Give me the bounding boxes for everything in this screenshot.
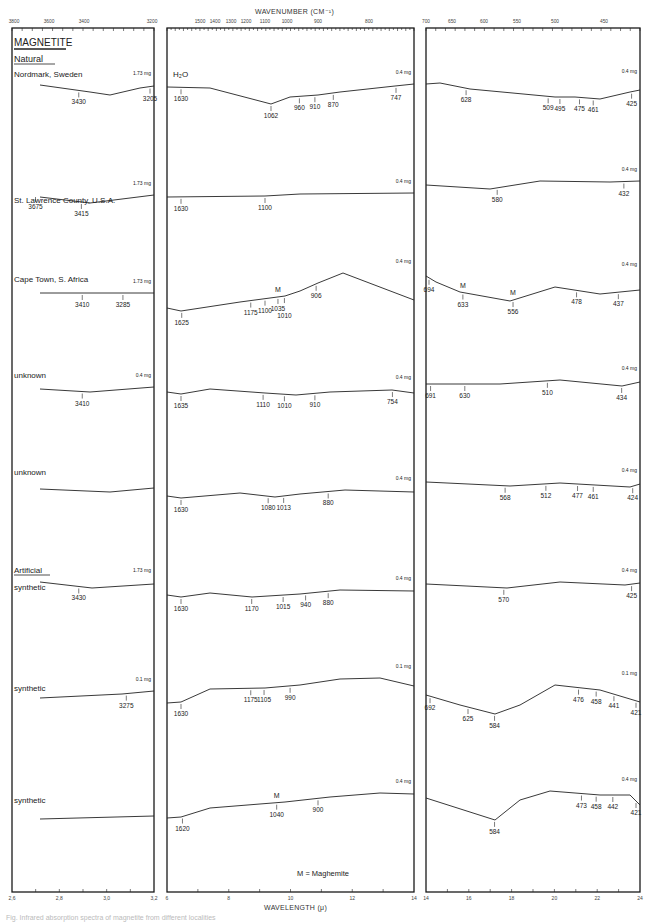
sample-name: unknown [14, 371, 46, 380]
band-label: 425 [626, 100, 637, 107]
sample-name: Nordmark, Sweden [14, 70, 82, 79]
sample-mass: 0.4 mg [622, 166, 638, 172]
band-label: 630 [459, 392, 470, 399]
spectrum-trace [426, 181, 640, 189]
band-label: 1630 [174, 205, 189, 212]
sample-mass: 0.4 mg [622, 567, 638, 573]
band-label: 584 [489, 722, 500, 729]
band-label: 495 [554, 105, 565, 112]
band-label: 1105 [257, 696, 271, 703]
sample-name: synthetic [14, 796, 46, 805]
band-label: 754 [387, 398, 398, 405]
spectrum-panel-2 [167, 28, 414, 892]
band-label: 477 [572, 492, 583, 499]
band-label: 1080 [261, 504, 276, 511]
sample-mass: 0.4 mg [622, 467, 638, 473]
sample-mass: 1.73 mg [133, 180, 151, 186]
top-tick-label: 1000 [282, 19, 293, 24]
band-label: 1175 [244, 309, 258, 316]
bottom-tick-label: 8 [227, 895, 230, 901]
top-tick-label: 1400 [210, 19, 221, 24]
band-label: 990 [285, 694, 296, 701]
spectrum-row: Cape Town, S. Africa1.73 mg341032850.4 m… [14, 258, 640, 326]
ir-spectra-figure: 38003600340032002,62,83,03,2150014001300… [0, 0, 645, 922]
bottom-tick-label: 2,8 [56, 895, 63, 901]
bottom-tick-label: 18 [509, 895, 515, 901]
band-label: 900 [313, 806, 324, 813]
spectrum-trace [167, 389, 414, 395]
bottom-tick-label: 10 [288, 895, 294, 901]
sample-name: Cape Town, S. Africa [14, 275, 89, 284]
bottom-tick-label: 16 [466, 895, 472, 901]
band-label: 510 [542, 389, 553, 396]
band-label: 441 [609, 702, 620, 709]
top-tick-label: 550 [513, 19, 521, 24]
band-label: 434 [616, 394, 627, 401]
band-label: 461 [588, 493, 599, 500]
spectrum-row: synthetic0.1 mg32750.1 mg163011751105990… [14, 663, 642, 729]
sample-mass: 0.1 mg [622, 670, 638, 676]
bottom-tick-label: 3,2 [151, 895, 158, 901]
band-label: 940 [300, 601, 311, 608]
band-label: 461 [588, 106, 599, 113]
band-label: 1110 [256, 401, 270, 408]
bottom-tick-label: 3,0 [103, 895, 110, 901]
figure-caption: Fig. Infrared absorption spectra of magn… [6, 914, 216, 921]
band-label: 625 [463, 715, 474, 722]
bottom-tick-label: 2,6 [9, 895, 16, 901]
sample-mass: 0.4 mg [396, 69, 412, 75]
top-tick-label: 3600 [44, 19, 55, 24]
bottom-tick-label: 20 [552, 895, 558, 901]
top-tick-label: 1100 [260, 19, 271, 24]
top-tick-label: 700 [422, 19, 430, 24]
maghemite-legend: M = Maghemite [297, 869, 349, 878]
band-label: 421 [631, 809, 642, 816]
band-label: 3430 [72, 594, 87, 601]
band-label: 3275 [119, 702, 134, 709]
sample-mass: 1.73 mg [133, 278, 151, 284]
sample-mass: 0.4 mg [396, 778, 412, 784]
top-tick-label: 600 [480, 19, 488, 24]
band-label: 3415 [74, 210, 89, 217]
spectrum-row: St. Lawrence County, U.S.A.1.73 mg367534… [14, 166, 640, 217]
band-label: 691 [425, 392, 436, 399]
spectrum-trace [40, 691, 154, 698]
top-tick-label: 650 [448, 19, 456, 24]
band-label: 1170 [245, 605, 259, 612]
band-label: 425 [626, 592, 637, 599]
spectrum-row: Nordmark, Sweden1.73 mg343032050.4 mgH₂O… [14, 68, 640, 119]
bottom-tick-label: 24 [637, 895, 643, 901]
spectrum-trace [40, 488, 154, 492]
spectrum-row: unknown0.4 mg1630108010138800.4 mg568512… [14, 467, 640, 513]
band-label: 432 [618, 190, 629, 197]
band-label: 475 [574, 105, 585, 112]
sample-mass: 0.4 mg [622, 261, 638, 267]
sample-mass: 0.4 mg [396, 475, 412, 481]
bottom-tick-label: 22 [594, 895, 600, 901]
top-tick-label: 3800 [9, 19, 20, 24]
band-label: 458 [591, 803, 602, 810]
top-tick-label: 450 [600, 19, 608, 24]
spectrum-trace [426, 276, 640, 301]
spectrum-trace [40, 816, 154, 819]
spectrum-trace [167, 793, 414, 818]
sample-mass: 0.4 mg [622, 68, 638, 74]
group-label-artificial: Artificial [14, 566, 42, 575]
top-axis-title: WAVENUMBER (CM⁻¹) [255, 8, 334, 15]
band-label: 906 [311, 292, 322, 299]
band-label: 1010 [277, 312, 292, 319]
top-tick-label: 1200 [241, 19, 252, 24]
spectrum-panel-1 [12, 28, 154, 892]
band-label: 478 [571, 298, 582, 305]
band-label: 458 [591, 698, 602, 705]
band-label: 694 [424, 286, 435, 293]
band-label: 580 [492, 196, 503, 203]
sample-mass: 0.4 mg [396, 178, 412, 184]
band-label: 556 [508, 308, 519, 315]
band-label: 421 [631, 709, 642, 716]
band-label: 1040 [269, 811, 284, 818]
sample-mass: 0.4 mg [396, 374, 412, 380]
band-label: 1062 [264, 112, 279, 119]
top-tick-label: 3200 [147, 19, 158, 24]
spectrum-row: synthetic1.73 mg34300.4 mg16301170101594… [14, 567, 640, 612]
